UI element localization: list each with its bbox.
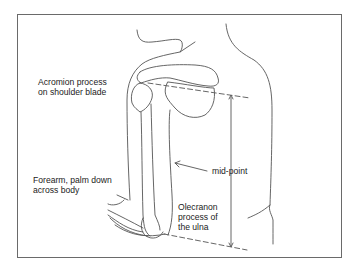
- humerus-shaft-inner: [151, 104, 160, 230]
- acromion-dashed-line: [148, 83, 250, 98]
- neck-outline: [137, 30, 195, 52]
- forearm-upper: [108, 200, 124, 205]
- forearm-pointer: [117, 195, 128, 200]
- olecranon-dashed-line: [164, 234, 247, 250]
- midpoint-label: mid-point: [212, 166, 247, 176]
- acromion-label: Acromion process on shoulder blade: [38, 77, 107, 97]
- scapula: [165, 82, 214, 117]
- humerus-head: [131, 83, 152, 112]
- waist-line: [248, 205, 270, 218]
- back-outline: [226, 24, 273, 244]
- humerus-shaft: [141, 112, 150, 236]
- olecranon-label: Olecranon process of the ulna: [178, 202, 218, 232]
- midpoint-pointer: [175, 163, 207, 171]
- forearm-label: Forearm, palm down across body: [33, 175, 112, 195]
- inner-arm-outline: [168, 110, 172, 235]
